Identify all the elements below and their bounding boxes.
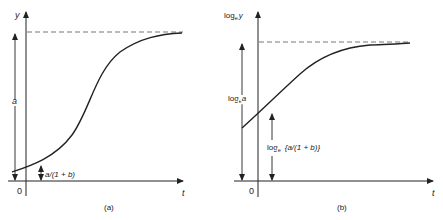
figure: y a a/(1 + b) 0 t (a) logey logea loge{a…: [0, 0, 443, 220]
log-logistic-curve: [242, 43, 410, 128]
caption-b: (b): [337, 203, 347, 212]
x-axis-label-a: t: [182, 188, 185, 198]
origin-label-b: 0: [249, 186, 254, 196]
asymptote-label-a: a: [12, 96, 17, 106]
intercept-label-a: a/(1 + b): [45, 170, 75, 179]
x-axis-label-b: t: [432, 188, 435, 198]
origin-label-a: 0: [17, 186, 22, 196]
y-axis-label-a: y: [14, 10, 20, 20]
caption-a: (a): [104, 203, 114, 212]
intercept-label-b: loge{a/(1 + b)}: [267, 143, 320, 153]
y-axis-label-b: logey: [224, 11, 244, 21]
asymptote-label-b: logea: [228, 94, 247, 104]
panel-b: logey logea loge{a/(1 + b)} 0 t (b): [224, 11, 435, 212]
panel-a: y a a/(1 + b) 0 t (a): [8, 10, 185, 212]
logistic-curve: [12, 33, 182, 172]
